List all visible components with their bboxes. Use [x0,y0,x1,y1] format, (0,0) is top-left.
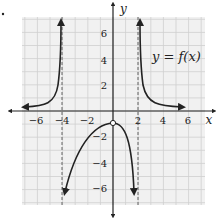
function-label: y = f(x) [151,49,201,64]
x-tick-label: 2 [135,115,141,126]
y-tick-label: 6 [101,28,107,39]
y-tick-label: −2 [92,131,107,142]
x-tick-label: −2 [80,115,95,126]
x-tick-label: 6 [185,115,191,126]
open-point-0-neg1 [110,120,115,125]
x-axis-label: x [206,113,213,127]
function-graph: −6 −4 −2 2 4 6 6 4 2 −2 −4 −6 x y y = f(… [0,0,220,219]
graph-canvas: −6 −4 −2 2 4 6 6 4 2 −2 −4 −6 x y y = f(… [0,0,220,219]
x-tick-label: −4 [55,115,70,126]
y-tick-label: −6 [92,183,107,194]
x-tick-label: −6 [29,115,44,126]
stray-mark [2,13,4,15]
x-tick-label: 4 [160,115,166,126]
y-tick-label: 4 [101,55,107,66]
y-tick-label: −4 [92,158,107,169]
y-axis-label: y [119,2,127,16]
y-tick-label: 2 [101,80,107,91]
